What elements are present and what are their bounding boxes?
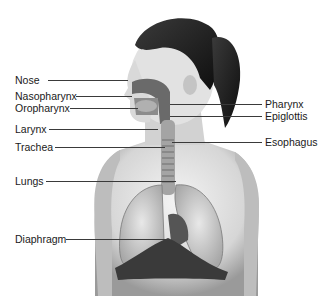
label-lungs: Lungs — [15, 175, 44, 187]
leader-line-larynx — [49, 129, 158, 130]
ear — [183, 75, 197, 95]
label-trachea: Trachea — [15, 141, 53, 153]
label-larynx: Larynx — [15, 123, 47, 135]
leader-line-diaphragm — [66, 239, 168, 240]
respiratory-system-diagram: NoseNasopharynxOropharynxLarynxTracheaLu… — [0, 0, 329, 296]
leader-line-lungs — [46, 181, 176, 182]
ponytail — [212, 37, 240, 128]
leader-line-oropharynx — [70, 108, 138, 109]
label-diaphragm: Diaphragm — [15, 233, 66, 245]
label-pharynx: Pharynx — [265, 98, 304, 110]
label-esophagus: Esophagus — [265, 136, 318, 148]
label-nasopharynx: Nasopharynx — [15, 90, 77, 102]
leader-line-nose — [48, 80, 128, 81]
leader-line-trachea — [55, 147, 165, 148]
leader-line-pharynx — [170, 104, 262, 105]
leader-line-esophagus — [172, 142, 262, 143]
label-oropharynx: Oropharynx — [15, 102, 70, 114]
label-nose: Nose — [15, 74, 40, 86]
label-epiglottis: Epiglottis — [265, 110, 308, 122]
leader-line-nasopharynx — [76, 96, 132, 97]
tongue — [135, 100, 157, 112]
leader-line-epiglottis — [170, 116, 262, 117]
